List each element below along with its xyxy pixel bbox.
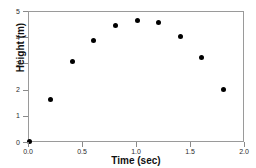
y-tick-label: 1	[2, 112, 20, 119]
y-axis-label: Height (m)	[15, 0, 26, 98]
x-tick-mark	[136, 142, 137, 147]
x-tick-label: 0.0	[16, 148, 40, 155]
data-point	[199, 55, 204, 60]
data-point	[70, 59, 75, 64]
x-tick-mark	[28, 142, 29, 147]
data-point	[91, 38, 96, 43]
data-point	[221, 87, 226, 92]
x-tick-mark	[244, 142, 245, 147]
data-points-layer	[29, 12, 243, 141]
x-tick-label: 1.0	[124, 148, 148, 155]
x-tick-label: 1.5	[178, 148, 202, 155]
data-point	[48, 97, 53, 102]
y-tick-label: 0	[2, 139, 20, 146]
data-point	[178, 34, 183, 39]
x-axis-label: Time (sec)	[28, 155, 244, 166]
data-point	[113, 23, 118, 28]
y-tick-mark	[23, 116, 28, 117]
x-tick-label: 2.0	[232, 148, 256, 155]
scatter-plot-figure: 012345 0.00.51.01.52.0 Time (sec) Height…	[0, 0, 256, 168]
x-tick-mark	[190, 142, 191, 147]
x-tick-label: 0.5	[70, 148, 94, 155]
data-point	[135, 18, 140, 23]
plot-frame	[28, 11, 244, 142]
data-point	[156, 20, 161, 25]
x-tick-mark	[82, 142, 83, 147]
